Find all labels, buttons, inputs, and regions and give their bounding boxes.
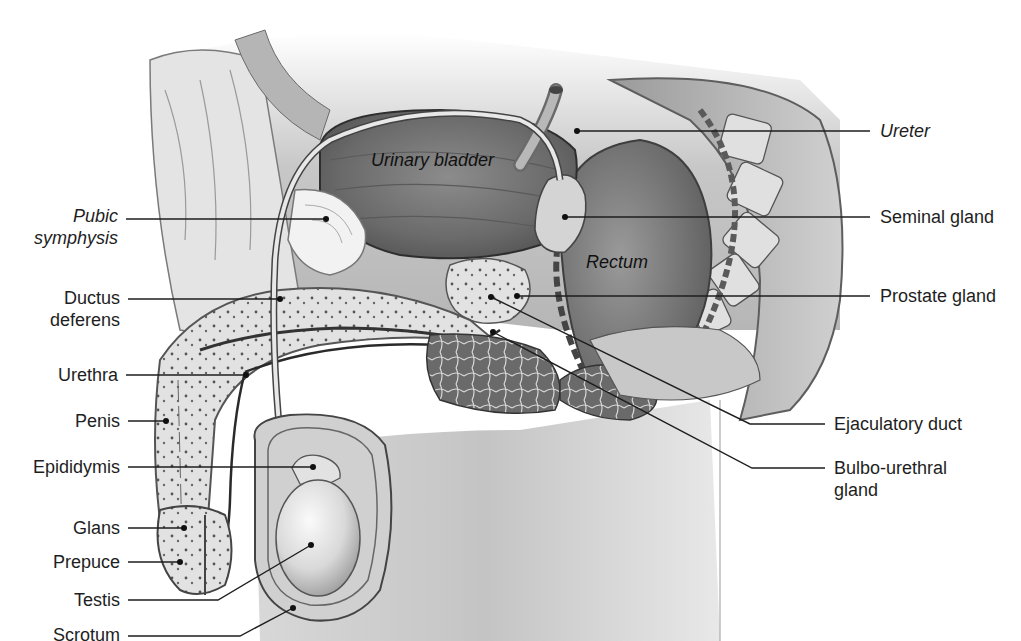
label-rectum: Rectum (586, 251, 648, 273)
anatomy-figure: Urinary bladder Rectum Pubic symphysis D… (0, 0, 1021, 641)
label-glans: Glans (0, 517, 120, 539)
label-urinary-bladder: Urinary bladder (371, 149, 494, 171)
anatomy-illustration (0, 0, 1021, 641)
label-seminal-gland: Seminal gland (880, 206, 994, 228)
label-ejaculatory-duct: Ejaculatory duct (834, 413, 962, 435)
label-epididymis: Epididymis (0, 456, 120, 478)
label-ureter: Ureter (880, 120, 930, 142)
label-testis: Testis (0, 589, 120, 611)
label-penis: Penis (0, 410, 120, 432)
label-prostate-gland: Prostate gland (880, 285, 996, 307)
label-ductus-deferens: Ductus deferens (0, 287, 120, 331)
label-urethra: Urethra (0, 364, 118, 386)
label-scrotum: Scrotum (0, 624, 120, 641)
label-bulbo-urethral-gland: Bulbo-urethral gland (834, 457, 947, 501)
label-pubic-symphysis: Pubic symphysis (0, 205, 118, 249)
label-prepuce: Prepuce (0, 551, 120, 573)
